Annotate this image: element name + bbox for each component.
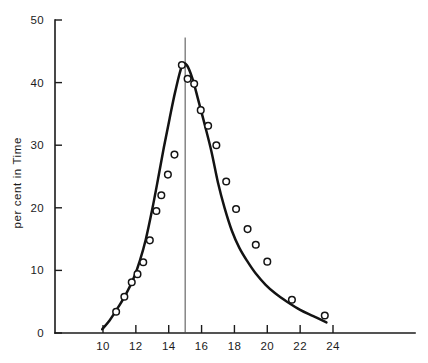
y-tick-label-0: 0 <box>37 327 44 339</box>
data-point <box>223 178 230 185</box>
fitted-curve-path <box>102 63 326 329</box>
x-tick-label-14: 14 <box>162 340 176 352</box>
data-point <box>153 208 160 215</box>
data-point <box>252 241 259 248</box>
y-axis-title-group: per cent in Time <box>11 137 23 228</box>
data-point <box>205 122 212 129</box>
data-point <box>128 279 135 286</box>
y-tick-label-10: 10 <box>30 264 44 276</box>
data-point <box>179 62 186 69</box>
x-tick-label-24: 24 <box>326 340 340 352</box>
x-tick-label-10: 10 <box>96 340 110 352</box>
chart-figure: 01020304050 1012141618202224 per cent in… <box>0 0 428 363</box>
data-point <box>147 237 154 244</box>
x-axis-tick-marks <box>103 325 333 333</box>
x-axis-tick-labels: 1012141618202224 <box>96 340 340 352</box>
data-point <box>197 107 204 114</box>
y-tick-label-30: 30 <box>30 139 44 151</box>
data-point <box>121 293 128 300</box>
y-axis-tick-marks <box>55 20 62 333</box>
data-point <box>113 308 120 315</box>
data-point <box>191 81 198 88</box>
data-point <box>213 142 220 149</box>
x-tick-label-22: 22 <box>293 340 307 352</box>
data-point <box>140 259 147 266</box>
y-tick-label-20: 20 <box>30 202 44 214</box>
y-axis-title: per cent in Time <box>11 137 23 228</box>
axes-group <box>55 20 415 333</box>
data-point <box>289 297 296 304</box>
data-point <box>321 312 328 319</box>
x-tick-label-12: 12 <box>129 340 143 352</box>
data-point <box>184 76 191 83</box>
x-tick-label-20: 20 <box>260 340 274 352</box>
data-point <box>244 226 251 233</box>
distribution-plot: 01020304050 1012141618202224 per cent in… <box>0 0 428 363</box>
data-point <box>233 206 240 213</box>
data-point <box>165 171 172 178</box>
y-axis-title-text: per cent in Time <box>11 137 23 228</box>
x-tick-label-16: 16 <box>195 340 209 352</box>
data-point <box>134 271 141 278</box>
y-axis-tick-labels: 01020304050 <box>30 14 44 339</box>
x-tick-label-18: 18 <box>228 340 242 352</box>
data-point <box>171 151 178 158</box>
data-point <box>264 258 271 265</box>
data-point <box>158 192 165 199</box>
y-tick-label-40: 40 <box>30 77 44 89</box>
y-tick-label-50: 50 <box>30 14 44 26</box>
